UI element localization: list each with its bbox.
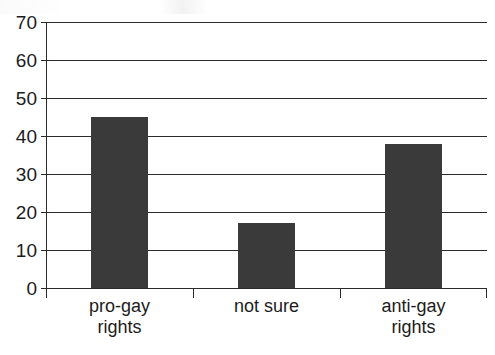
plot-area: 706050403020100 bbox=[46, 22, 487, 288]
y-axis-tick-label: 20 bbox=[16, 203, 37, 222]
y-axis-tick-label: 10 bbox=[16, 241, 37, 260]
x-axis-category-label: anti-gayrights bbox=[340, 296, 487, 338]
scan-artifact bbox=[0, 0, 495, 14]
x-axis-category-label: not sure bbox=[193, 296, 340, 317]
y-axis-tick-label: 60 bbox=[16, 51, 37, 70]
x-axis-category-label-line2: rights bbox=[340, 317, 487, 338]
y-axis-tick-label: 70 bbox=[16, 13, 37, 32]
y-gridline bbox=[46, 22, 487, 23]
y-axis-tick-label: 0 bbox=[26, 279, 37, 298]
x-axis-category-label: pro-gayrights bbox=[46, 296, 193, 338]
y-axis-tick bbox=[41, 250, 50, 251]
bar bbox=[385, 144, 442, 288]
y-axis-tick bbox=[41, 174, 50, 175]
y-gridline bbox=[46, 288, 487, 289]
y-axis-tick bbox=[41, 136, 50, 137]
y-axis-tick-label: 40 bbox=[16, 127, 37, 146]
x-axis-category-label-line1: not sure bbox=[234, 296, 299, 316]
y-axis-tick-label: 50 bbox=[16, 89, 37, 108]
x-axis-category-label-line1: anti-gay bbox=[381, 296, 445, 316]
y-gridline bbox=[46, 98, 487, 99]
y-axis-tick bbox=[41, 98, 50, 99]
y-axis-tick-label: 30 bbox=[16, 165, 37, 184]
y-axis-tick bbox=[41, 212, 50, 213]
y-gridline bbox=[46, 60, 487, 61]
y-axis-tick bbox=[41, 22, 50, 23]
x-axis-category-label-line2: rights bbox=[46, 317, 193, 338]
bar bbox=[91, 117, 148, 288]
y-axis-tick bbox=[41, 60, 50, 61]
bar bbox=[238, 223, 295, 288]
x-axis-category-label-line1: pro-gay bbox=[89, 296, 150, 316]
bar-chart-figure: 706050403020100 pro-gayrightsnot sureant… bbox=[0, 0, 495, 355]
